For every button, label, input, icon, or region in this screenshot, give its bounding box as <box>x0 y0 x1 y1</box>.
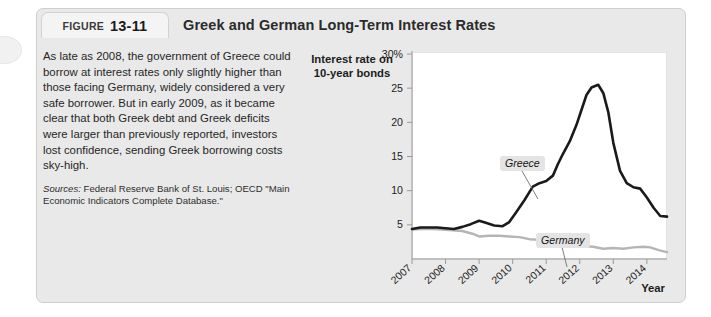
svg-text:2009: 2009 <box>456 262 481 286</box>
svg-text:5: 5 <box>397 218 403 230</box>
figure-word-label: FIGURE <box>63 20 104 32</box>
figure-body: As late as 2008, the government of Greec… <box>41 39 683 300</box>
figure-panel: FIGURE 13-11 Greek and German Long-Term … <box>36 8 686 303</box>
description-paragraph: As late as 2008, the government of Greec… <box>43 49 297 174</box>
chart-column: Interest rate on 10-year bonds 30%252015… <box>294 39 683 300</box>
svg-text:25: 25 <box>391 82 403 94</box>
figure-header: FIGURE 13-11 Greek and German Long-Term … <box>37 9 685 39</box>
svg-text:10: 10 <box>391 184 403 196</box>
x-axis-title: Year <box>641 282 665 294</box>
figure-number-tab: FIGURE 13-11 <box>41 12 169 38</box>
svg-text:15: 15 <box>391 150 403 162</box>
page-edge-artifact <box>0 36 22 64</box>
series-annotation-germany: Germany <box>536 233 590 248</box>
svg-text:2007: 2007 <box>389 262 414 286</box>
figure-number-label: 13-11 <box>110 18 147 34</box>
svg-text:2008: 2008 <box>422 262 447 286</box>
figure-title: Greek and German Long-Term Interest Rate… <box>183 17 495 33</box>
chart-svg: 30%2520151052007200820092010201120122013… <box>294 39 683 300</box>
sources-note: Sources: Federal Reserve Bank of St. Lou… <box>43 183 297 208</box>
svg-text:2013: 2013 <box>590 262 615 286</box>
svg-text:2012: 2012 <box>557 262 582 286</box>
svg-text:2011: 2011 <box>524 262 548 285</box>
sources-text: Federal Reserve Bank of St. Louis; OECD … <box>43 183 290 207</box>
svg-text:20: 20 <box>391 116 403 128</box>
description-column: As late as 2008, the government of Greec… <box>43 49 297 208</box>
svg-text:30%: 30% <box>382 48 404 60</box>
svg-text:2010: 2010 <box>489 262 514 286</box>
sources-label: Sources: <box>43 183 81 194</box>
series-annotation-greece: Greece <box>500 156 545 171</box>
